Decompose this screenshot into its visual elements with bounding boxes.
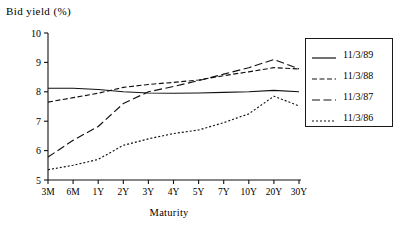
y-axis-ticks: 5678910	[31, 28, 48, 186]
x-tick-label: 20Y	[266, 187, 283, 197]
y-tick-label: 9	[36, 57, 41, 68]
y-tick-label: 8	[36, 86, 41, 97]
y-tick-label: 7	[36, 116, 41, 127]
x-tick-label: 10Y	[241, 187, 258, 197]
y-tick-label: 6	[36, 145, 41, 156]
series-line	[48, 68, 299, 102]
legend-label: 11/3/89	[343, 49, 373, 60]
y-tick-label: 5	[36, 175, 41, 186]
legend-item: 11/3/89	[311, 48, 373, 60]
x-tick-label: 2Y	[117, 187, 129, 197]
data-series-group	[48, 59, 299, 169]
legend-line-swatch	[311, 49, 337, 59]
x-tick-label: 4Y	[168, 187, 180, 197]
legend-label: 11/3/88	[343, 70, 373, 81]
axes	[48, 33, 301, 180]
x-tick-label: 5Y	[193, 187, 205, 197]
legend-line-swatch	[311, 91, 337, 101]
series-line	[48, 88, 299, 93]
legend-line-swatch	[311, 112, 337, 122]
x-axis-ticks: 3M6M1Y2Y3Y4Y5Y7Y10Y20Y30Y	[41, 180, 307, 197]
x-tick-label: 3Y	[143, 187, 155, 197]
legend-line-swatch	[311, 70, 337, 80]
x-tick-label: 7Y	[218, 187, 230, 197]
x-tick-label: 30Y	[291, 187, 308, 197]
y-tick-label: 10	[31, 28, 41, 39]
legend-label: 11/3/87	[343, 91, 373, 102]
series-line	[48, 96, 299, 170]
figure-container: Bid yield (%) 5678910 3M6M1Y2Y3Y4Y5Y7Y10…	[0, 0, 401, 239]
legend-item: 11/3/88	[311, 69, 373, 81]
x-tick-label: 6M	[66, 187, 80, 197]
series-line	[48, 59, 299, 157]
legend-label: 11/3/86	[343, 112, 373, 123]
legend-item: 11/3/87	[311, 90, 373, 102]
x-axis-label: Maturity	[150, 207, 189, 218]
legend: 11/3/8911/3/8811/3/8711/3/86	[305, 38, 393, 127]
x-tick-label: 1Y	[92, 187, 104, 197]
legend-item: 11/3/86	[311, 111, 373, 123]
x-tick-label: 3M	[41, 187, 55, 197]
